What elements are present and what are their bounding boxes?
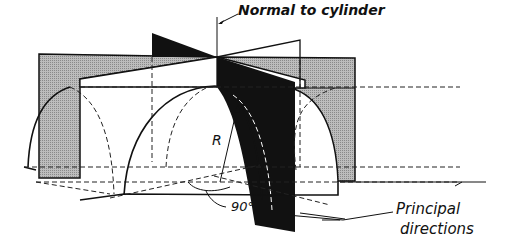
normal-to-cylinder-line — [217, 14, 238, 57]
principal-label-line2: directions — [400, 220, 474, 238]
radius-label: R — [212, 132, 222, 148]
angle-label: 90° — [231, 199, 254, 214]
normal-label: Normal to cylinder — [238, 2, 385, 18]
principal-label-line1: Principal — [396, 200, 460, 218]
